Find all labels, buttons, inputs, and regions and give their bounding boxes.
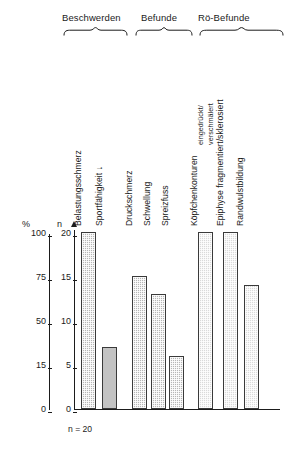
tick-count-15: 15 bbox=[50, 272, 71, 282]
figure-root: Beschwerden Befunde Rö-Befunde eingedrüc… bbox=[0, 0, 287, 451]
group-header-befunde: Befunde bbox=[141, 12, 177, 23]
group-header-beschwerden: Beschwerden bbox=[62, 12, 121, 23]
tick-percent-75: 75 bbox=[16, 272, 46, 282]
tick-count-20: 20 bbox=[50, 228, 71, 238]
tick-count-5: 5 bbox=[50, 360, 71, 370]
brace-befunde bbox=[135, 27, 193, 36]
tick-percent-25: 15 bbox=[16, 360, 46, 370]
cat-label-schwellung: Schwellung bbox=[142, 182, 152, 226]
cat-label-randwulstbildung: Randwulstbildung bbox=[235, 157, 245, 226]
group-header-roe-befunde: Rö-Befunde bbox=[198, 12, 250, 23]
cat-label-epiphyse-fragmentiert: Epiphyse fragmentiert/sklerosiert bbox=[215, 99, 225, 226]
bar-sportfaehigkeit bbox=[102, 347, 117, 409]
sample-size-note: n = 20 bbox=[68, 424, 92, 434]
bar-epiphyse-fragmentiert bbox=[223, 232, 238, 409]
cat-label-belastungsschmerz: Belastungsschmerz bbox=[73, 150, 83, 226]
cat-label-sportfaehigkeit: Sportfähigkeit ↓ bbox=[94, 166, 104, 226]
tick-percent-0: 0 bbox=[16, 404, 46, 414]
brace-beschwerden bbox=[63, 27, 128, 36]
tick-count-0: 0 bbox=[50, 404, 71, 414]
bar-spreizfuss bbox=[169, 356, 184, 409]
cat-label-koepfchenkonturen: Köpfchenkonturen bbox=[189, 155, 199, 226]
cat-sublabel-eingedrueckt: eingedrückt/ bbox=[196, 105, 205, 145]
axis-arrow-icon bbox=[71, 221, 77, 227]
tick-count-10: 10 bbox=[50, 316, 71, 326]
brace-roe-befunde bbox=[199, 27, 284, 36]
cat-label-spreizfuss: Spreizfuss bbox=[160, 185, 170, 226]
plot-area bbox=[75, 232, 280, 410]
bar-schwellung bbox=[151, 294, 166, 409]
cat-label-druckschmerz: Druckschmerz bbox=[124, 170, 134, 226]
bar-belastungsschmerz bbox=[81, 232, 96, 409]
baseline-axis bbox=[75, 409, 280, 410]
bar-koepfchenkonturen bbox=[198, 232, 213, 409]
tick-mark-count-0 bbox=[73, 412, 77, 413]
bar-randwulstbildung bbox=[244, 285, 259, 409]
tick-percent-50: 50 bbox=[16, 316, 46, 326]
tick-percent-100: 100 bbox=[16, 228, 46, 238]
cat-sublabel-verschmaelert: verschmälert bbox=[206, 103, 215, 145]
bar-druckschmerz bbox=[132, 276, 147, 408]
